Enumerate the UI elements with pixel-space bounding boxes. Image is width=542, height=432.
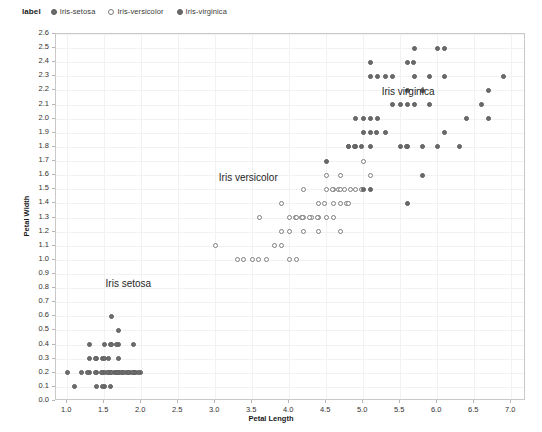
data-point [324,159,329,164]
x-tick-label-12: 7.0 [495,405,525,414]
data-point [324,215,329,220]
annotation-0: Iris virginica [382,86,435,97]
data-point [331,215,336,220]
scatter-plot-area[interactable]: Iris virginicaIris versicolorIris setosa [55,33,525,400]
data-point [442,130,447,135]
y-tick-label-19: 1.9 [21,127,49,136]
data-point [368,144,373,149]
data-point [368,60,373,65]
x-tick-label-4: 3.0 [199,405,229,414]
data-point [108,384,113,389]
legend-title: label [22,7,41,16]
y-tick-label-21: 2.1 [21,99,49,108]
x-tick-label-1: 1.5 [88,405,118,414]
data-point [116,328,121,333]
y-tick-label-6: 0.6 [21,310,49,319]
data-point [427,74,432,79]
data-point [93,356,98,361]
data-point [405,201,410,206]
data-point [250,257,255,262]
y-tick-label-4: 0.4 [21,339,49,348]
y-tick-label-18: 1.8 [21,141,49,150]
y-tick-label-20: 2.0 [21,113,49,122]
data-point [301,187,306,192]
y-tick-label-8: 0.8 [21,282,49,291]
x-tick-label-5: 3.5 [236,405,266,414]
x-tick-mark [510,400,511,403]
filled-circle-icon [177,9,183,15]
data-point [94,384,99,389]
gridline-horizontal [56,34,524,35]
data-point [106,356,111,361]
x-tick-mark [473,400,474,403]
y-tick-label-16: 1.6 [21,169,49,178]
gridline-horizontal [56,246,524,247]
x-tick-mark [325,400,326,403]
x-tick-label-11: 6.5 [458,405,488,414]
legend-item-iris-setosa[interactable]: Iris-setosa [51,7,96,16]
x-tick-label-10: 6.0 [421,405,451,414]
data-point [131,342,136,347]
data-point [361,187,366,192]
data-point [374,130,379,135]
data-point [316,229,321,234]
data-point [257,215,262,220]
data-point [116,356,121,361]
data-point [411,60,416,65]
data-point [87,356,92,361]
data-point [412,102,417,107]
gridline-horizontal [56,133,524,134]
x-tick-mark [399,400,400,403]
x-tick-mark [362,400,363,403]
data-point [346,144,351,149]
y-tick-label-5: 0.5 [21,324,49,333]
data-point [486,116,491,121]
data-point [361,159,366,164]
data-point [390,74,395,79]
data-point [383,74,388,79]
data-point [102,342,107,347]
data-point [368,130,373,135]
filled-circle-icon [51,9,57,15]
data-point [368,173,373,178]
legend-item-label: Iris-virginica [186,7,227,16]
data-point [398,144,403,149]
gridline-horizontal [56,147,524,148]
y-tick-label-12: 1.2 [21,226,49,235]
data-point [375,74,380,79]
data-point [279,201,284,206]
data-point [213,243,218,248]
data-point [324,187,329,192]
data-point [287,215,292,220]
data-point [338,201,343,206]
legend: label Iris-setosa Iris-versicolor Iris-v… [22,7,227,16]
data-point [420,144,425,149]
legend-item-label: Iris-setosa [60,7,96,16]
y-tick-mark [52,400,55,401]
data-point [375,116,380,121]
data-point [435,144,440,149]
data-point [315,215,320,220]
data-point [279,243,284,248]
data-point [79,370,84,375]
y-tick-label-0: 0.0 [21,395,49,404]
x-axis-title: Petal Length [0,414,542,423]
y-tick-label-22: 2.2 [21,84,49,93]
data-point [114,342,119,347]
data-point [65,370,70,375]
data-point [338,173,343,178]
data-point [346,201,351,206]
legend-item-iris-versicolor[interactable]: Iris-versicolor [108,7,163,16]
data-point [361,130,366,135]
legend-item-iris-virginica[interactable]: Iris-virginica [177,7,227,16]
data-point [353,116,358,121]
data-point [256,257,261,262]
data-point [368,116,373,121]
data-point [486,88,491,93]
gridline-horizontal [56,119,524,120]
y-tick-label-25: 2.5 [21,42,49,51]
data-point [420,173,425,178]
data-point [331,201,336,206]
data-point [398,102,403,107]
data-point [241,257,246,262]
